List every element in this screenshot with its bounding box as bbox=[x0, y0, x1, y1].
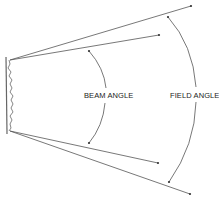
beam-angle-arc-top bbox=[89, 51, 106, 88]
light-source bbox=[6, 57, 13, 134]
field-angle-label: FIELD ANGLE bbox=[170, 91, 219, 100]
beam-angle-arc-bottom bbox=[89, 103, 105, 143]
field-ray-top bbox=[10, 6, 191, 60]
beam-ray-bottom bbox=[10, 131, 158, 163]
field-angle-arc-bottom bbox=[169, 102, 196, 182]
beam-angle-label: BEAM ANGLE bbox=[84, 91, 133, 100]
field-angle-arc-top bbox=[168, 17, 196, 87]
beam-ray-top bbox=[10, 35, 159, 60]
field-ray-bottom bbox=[10, 131, 190, 194]
